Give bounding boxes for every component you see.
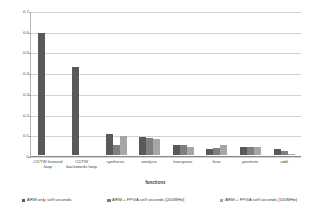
bar: [220, 145, 227, 155]
x-axis-title: functions: [0, 180, 311, 185]
bar: [213, 148, 220, 155]
y-axis-tick-mark: [29, 53, 31, 54]
bar-group: [99, 12, 133, 155]
y-axis-tick-label: 0.5: [23, 51, 29, 55]
x-axis-tick-label: CDTW backwards loop: [65, 159, 99, 170]
x-axis-tick-label: fuse: [200, 159, 234, 170]
bar: [206, 149, 213, 155]
y-axis-tick-mark: [29, 74, 31, 75]
y-axis-tick-mark: [29, 33, 31, 34]
x-axis-tick-label: synthesis: [99, 159, 133, 170]
bar: [274, 149, 281, 155]
bar: [254, 147, 261, 155]
bar: [247, 147, 254, 155]
bar-group: [167, 12, 201, 155]
bar-group: [32, 12, 66, 155]
x-axis-tick-label: analysis: [132, 159, 166, 170]
y-axis-tick-mark: [29, 95, 31, 96]
bar: [38, 33, 45, 155]
legend-label: ARM + FPGA self seconds [100MHz]: [225, 198, 297, 202]
gridline: [31, 157, 301, 158]
legend-item: ARM only self seconds: [22, 198, 71, 202]
y-axis-tick-label: 0.1: [23, 134, 29, 138]
bar: [139, 137, 146, 155]
y-axis-tick-mark: [29, 116, 31, 117]
bar: [72, 67, 79, 155]
y-axis-tick-label: 0.4: [23, 72, 29, 76]
legend-label: ARM + FPGA self seconds [200MHz]: [112, 198, 184, 202]
legend-item: ARM + FPGA self seconds [200MHz]: [107, 198, 184, 202]
y-axis-tick-label: 0: [27, 155, 29, 159]
x-axis-tick-labels: CDTW forward loopCDTW backwards loopsynt…: [31, 159, 301, 170]
x-axis-tick-label: add: [267, 159, 301, 170]
plot-wrapper: time (seconds) 00.10.20.30.40.50.60.7: [30, 12, 301, 157]
bar: [180, 145, 187, 155]
bar-group: [234, 12, 268, 155]
y-axis-tick-label: 0.3: [23, 93, 29, 97]
y-axis-tick-mark: [29, 136, 31, 137]
bar-group: [267, 12, 301, 155]
bar: [240, 147, 247, 155]
plot-area: 00.10.20.30.40.50.60.7: [30, 12, 301, 157]
bar-group: [66, 12, 100, 155]
bar-group: [200, 12, 234, 155]
bar: [113, 145, 120, 155]
y-axis-tick-label: 0.6: [23, 31, 29, 35]
bar: [288, 154, 295, 155]
x-axis-tick-label: permute: [234, 159, 268, 170]
legend-item: ARM + FPGA self seconds [100MHz]: [220, 198, 297, 202]
bar: [187, 147, 194, 155]
y-axis-tick-label: 0.7: [23, 10, 29, 14]
y-axis-tick-label: 0.2: [23, 113, 29, 117]
bar: [146, 138, 153, 155]
legend-swatch-icon: [107, 199, 110, 202]
bar: [173, 145, 180, 155]
x-axis-tick-label: transpose: [166, 159, 200, 170]
legend-swatch-icon: [220, 199, 223, 202]
bar: [106, 134, 113, 155]
bar-group: [133, 12, 167, 155]
x-axis-tick-label: CDTW forward loop: [31, 159, 65, 170]
bar-groups: [32, 12, 301, 155]
legend-swatch-icon: [22, 199, 25, 202]
y-axis-tick-mark: [29, 157, 31, 158]
chart-legend: ARM only self secondsARM + FPGA self sec…: [22, 198, 297, 202]
bar: [281, 151, 288, 155]
bar: [120, 136, 127, 155]
legend-label: ARM only self seconds: [27, 198, 72, 202]
bar-chart: time (seconds) 00.10.20.30.40.50.60.7 CD…: [0, 0, 311, 216]
y-axis-tick-mark: [29, 12, 31, 13]
bar: [153, 139, 160, 155]
